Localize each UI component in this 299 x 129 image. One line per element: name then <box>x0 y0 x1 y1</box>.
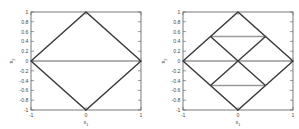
y-tick-label: 0.2 <box>173 48 180 54</box>
x-axis-label: x1 <box>84 119 89 127</box>
y-tick-label: 0 <box>26 58 29 64</box>
plot-svg-left: 1 0.8 0.6 0.4 0.2 0 -0.2 -0.4 -0.6 -0.8 … <box>0 0 149 129</box>
y-tick-label: 1 <box>26 9 29 15</box>
x-tick-label: -1 <box>181 112 186 118</box>
y-tick-label: 0.6 <box>21 29 28 35</box>
y-axis-label: x2 <box>8 59 16 64</box>
y-tick-label: -0.8 <box>20 97 29 103</box>
x-tick-label: -1 <box>29 112 34 118</box>
y-tick-label: 0.4 <box>21 38 28 44</box>
y-tick-label: -0.6 <box>172 87 181 93</box>
x-tick-label: 0 <box>85 112 88 118</box>
x-axis-label: x1 <box>236 119 241 127</box>
x-tick-label: 0 <box>237 112 240 118</box>
chart-panel-left: 1 0.8 0.6 0.4 0.2 0 -0.2 -0.4 -0.6 -0.8 … <box>0 0 149 129</box>
y-tick-label: 1 <box>178 9 181 15</box>
y-tick-label: 0.4 <box>173 38 180 44</box>
figure-container: 1 0.8 0.6 0.4 0.2 0 -0.2 -0.4 -0.6 -0.8 … <box>0 0 299 129</box>
y-tick-label: 0.6 <box>173 29 180 35</box>
y-tick-label: -0.4 <box>20 78 29 84</box>
y-tick-label: 0 <box>178 58 181 64</box>
y-tick-label: 0.8 <box>173 19 180 25</box>
y-tick-label: 0.8 <box>21 19 28 25</box>
y-tick-label: -0.8 <box>172 97 181 103</box>
x-tick-label: 1 <box>140 112 143 118</box>
y-tick-label: -0.2 <box>172 68 181 74</box>
y-tick-label: -0.6 <box>20 87 29 93</box>
chart-panel-right: 1 0.8 0.6 0.4 0.2 0 -0.2 -0.4 -0.6 -0.8 … <box>150 0 299 129</box>
y-tick-label: 0.2 <box>21 48 28 54</box>
x-tick-label: 1 <box>292 112 295 118</box>
plot-svg-right: 1 0.8 0.6 0.4 0.2 0 -0.2 -0.4 -0.6 -0.8 … <box>150 0 299 129</box>
y-tick-label: -0.2 <box>20 68 29 74</box>
y-tick-label: -0.4 <box>172 78 181 84</box>
y-axis-label: x2 <box>160 59 168 64</box>
